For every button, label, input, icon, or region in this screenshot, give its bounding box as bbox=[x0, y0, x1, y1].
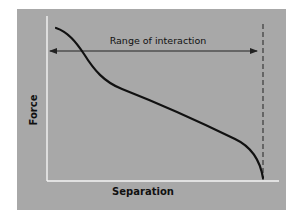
x-axis-label: Separation bbox=[112, 186, 174, 197]
range-of-interaction-label: Range of interaction bbox=[110, 35, 207, 46]
force-separation-diagram: Range of interaction Separation Force bbox=[0, 0, 304, 220]
y-axis-label: Force bbox=[28, 94, 39, 125]
